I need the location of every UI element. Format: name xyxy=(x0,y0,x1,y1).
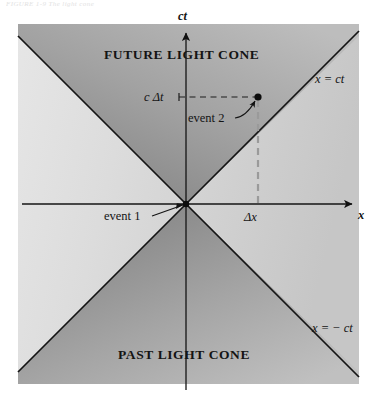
event-2-label: event 2 xyxy=(188,112,224,125)
future-light-cone-label: FUTURE LIGHT CONE xyxy=(104,48,259,62)
past-light-cone-label: PAST LIGHT CONE xyxy=(118,348,250,362)
event-1-dot xyxy=(183,201,189,207)
delta-x-label: Δx xyxy=(244,211,257,224)
light-cone-figure: FIGURE 1-9 The light cone xyxy=(0,0,379,399)
x-equals-minus-ct-label: x = − ct xyxy=(312,322,353,335)
x-equals-ct-label: x = ct xyxy=(315,73,344,86)
c-delta-t-label: c Δt xyxy=(144,91,163,104)
ct-axis-label: ct xyxy=(178,10,187,23)
event-2-dot xyxy=(254,93,261,100)
event-1-label: event 1 xyxy=(104,210,140,223)
x-axis-label: x xyxy=(358,209,364,222)
